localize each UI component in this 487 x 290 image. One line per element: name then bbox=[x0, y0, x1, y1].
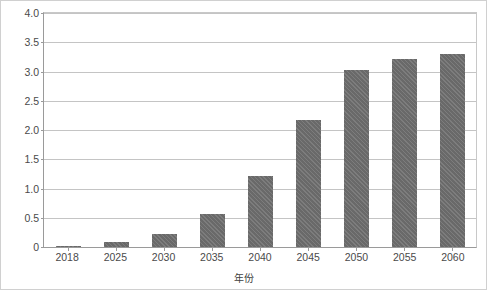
bar-slot bbox=[140, 13, 188, 247]
x-axis-tick-label: 2035 bbox=[188, 251, 236, 263]
chart-figure: 用电量（万亿千瓦时） 4.03.53.02.52.01.51.00.50 201… bbox=[0, 0, 487, 290]
bar-slot bbox=[380, 13, 428, 247]
plot-area: 4.03.53.02.52.01.51.00.50 bbox=[43, 12, 477, 248]
y-axis-tick-label: 1.0 bbox=[24, 183, 39, 195]
y-axis-tick-label: 2.5 bbox=[24, 95, 39, 107]
bar-slot bbox=[284, 13, 332, 247]
x-axis-tick-label: 2050 bbox=[332, 251, 380, 263]
y-axis-tick-label: 4.0 bbox=[24, 7, 39, 19]
bar-slot bbox=[44, 13, 92, 247]
bar[interactable] bbox=[440, 54, 465, 247]
bar[interactable] bbox=[344, 70, 369, 247]
bar[interactable] bbox=[296, 120, 321, 247]
y-axis-tick-label: 3.5 bbox=[24, 36, 39, 48]
x-axis-tick-label: 2018 bbox=[43, 251, 91, 263]
y-axis-tick-label: 0 bbox=[33, 241, 39, 253]
x-axis-tick-label: 2040 bbox=[236, 251, 284, 263]
x-axis-tick-label: 2025 bbox=[91, 251, 139, 263]
x-axis-tick-label: 2045 bbox=[284, 251, 332, 263]
bar-slot bbox=[188, 13, 236, 247]
bar-slot bbox=[236, 13, 284, 247]
bar-slot bbox=[92, 13, 140, 247]
bar[interactable] bbox=[392, 59, 417, 247]
bar[interactable] bbox=[248, 176, 273, 247]
y-axis-tick-label: 0.5 bbox=[24, 212, 39, 224]
bar-slot bbox=[428, 13, 476, 247]
bar[interactable] bbox=[200, 214, 225, 247]
bar[interactable] bbox=[152, 234, 177, 247]
x-axis-tick-label: 2030 bbox=[139, 251, 187, 263]
x-axis-tick-label: 2055 bbox=[381, 251, 429, 263]
y-axis-tick-mark bbox=[41, 247, 44, 248]
x-axis-tick-labels: 201820252030203520402045205020552060 bbox=[43, 251, 477, 263]
bar-slot bbox=[332, 13, 380, 247]
y-axis-tick-label: 3.0 bbox=[24, 66, 39, 78]
x-axis-tick-label: 2060 bbox=[429, 251, 477, 263]
x-axis-title: 年份 bbox=[1, 270, 486, 285]
y-axis-tick-label: 2.0 bbox=[24, 124, 39, 136]
y-axis-tick-label: 1.5 bbox=[24, 153, 39, 165]
bar-series bbox=[44, 13, 476, 247]
